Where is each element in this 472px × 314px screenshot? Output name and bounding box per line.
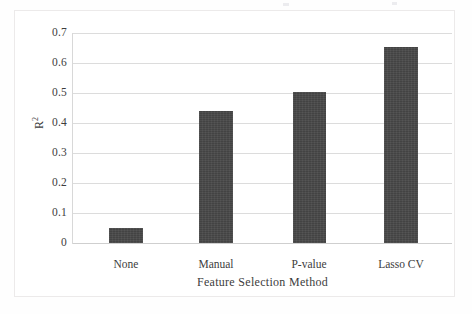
figure-root: R2 0.7 0.6 0.5 0.4 0.3 0.2 0.1 0 xyxy=(0,0,472,314)
y-tick-label: 0.2 xyxy=(27,177,67,189)
y-tick-label: 0.3 xyxy=(27,147,67,159)
y-tick-label: 0.7 xyxy=(27,27,67,39)
x-tick-label-p-value: P-value xyxy=(266,257,352,271)
scan-artifact xyxy=(392,2,397,5)
y-axis-tick-labels: 0.7 0.6 0.5 0.4 0.3 0.2 0.1 0 xyxy=(23,33,67,243)
bar-none xyxy=(109,228,143,243)
bar-lasso-cv xyxy=(384,47,418,244)
y-tick-label: 0.1 xyxy=(27,207,67,219)
x-axis-title: Feature Selection Method xyxy=(73,275,452,290)
gridline-0.7 xyxy=(73,33,452,34)
y-tick-label: 0.5 xyxy=(27,87,67,99)
y-tick-label: 0.4 xyxy=(27,117,67,129)
y-tick-label: 0.6 xyxy=(27,57,67,69)
scan-artifact xyxy=(283,3,289,6)
x-tick-label-lasso-cv: Lasso CV xyxy=(358,257,444,271)
y-tick-label: 0 xyxy=(27,237,67,249)
x-axis-tick-labels: None Manual P-value Lasso CV xyxy=(73,257,452,275)
chart-frame: R2 0.7 0.6 0.5 0.4 0.3 0.2 0.1 0 xyxy=(14,10,455,297)
plot-area xyxy=(73,33,452,243)
gridline-baseline-0 xyxy=(73,243,452,244)
x-tick-label-none: None xyxy=(83,257,169,271)
x-tick-label-manual: Manual xyxy=(173,257,259,271)
bar-p-value xyxy=(293,92,326,244)
bar-manual xyxy=(199,111,233,243)
